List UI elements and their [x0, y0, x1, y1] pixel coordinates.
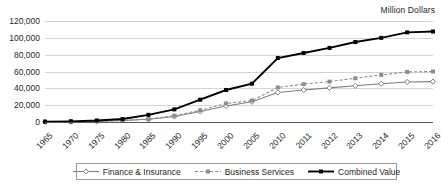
chart-container: Million Dollars 020,00040,00060,00080,00…	[0, 0, 441, 194]
legend-item[interactable]: Combined Value	[308, 167, 400, 177]
legend-swatch-icon	[308, 167, 334, 176]
legend-item[interactable]: Finance & Insurance	[73, 167, 181, 177]
chart-series	[43, 30, 435, 124]
legend-swatch-icon	[73, 167, 99, 176]
chart-series	[43, 70, 435, 124]
legend-item-label: Business Services	[225, 167, 294, 177]
legend-item-label: Combined Value	[338, 167, 400, 177]
legend-item[interactable]: Business Services	[195, 167, 294, 177]
legend-swatch-icon	[195, 167, 221, 176]
legend-item-label: Finance & Insurance	[103, 167, 181, 177]
chart-legend: Finance & InsuranceBusiness ServicesComb…	[76, 163, 397, 180]
x-axis-line	[45, 122, 433, 123]
